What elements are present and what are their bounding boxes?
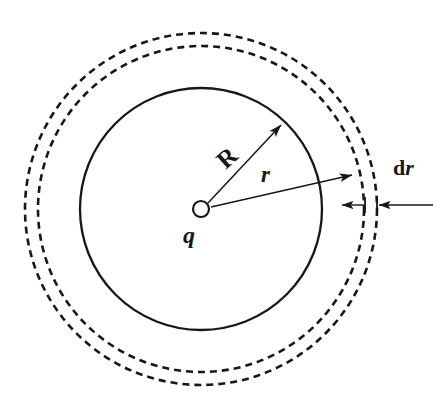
physics-diagram-figure: R r q dr [0, 0, 433, 409]
label-thickness-d-part: d [393, 155, 405, 180]
radius-r-arrow [211, 175, 352, 207]
label-thickness-r-part: r [405, 155, 414, 180]
radius-R-arrow [208, 125, 281, 203]
label-charge-q: q [183, 222, 195, 249]
diagram-canvas [0, 0, 433, 409]
label-thickness-dr: dr [393, 155, 414, 181]
charge-marker [193, 201, 209, 217]
label-radius-r: r [261, 162, 270, 188]
